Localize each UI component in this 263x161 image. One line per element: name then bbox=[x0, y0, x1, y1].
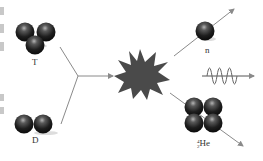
fusion-diagram: T D n 4 2 He bbox=[0, 0, 263, 161]
reaction-lines bbox=[60, 47, 113, 124]
neutron-label: n bbox=[205, 46, 210, 55]
neutron-particle bbox=[174, 9, 234, 56]
deuterium-label: D bbox=[32, 136, 39, 145]
tritium-label: T bbox=[32, 58, 38, 67]
tritium-nucleus bbox=[16, 23, 56, 55]
deuterium-nucleus bbox=[15, 115, 59, 136]
diagram-canvas bbox=[0, 0, 263, 161]
clipped-text-fragments bbox=[0, 7, 4, 114]
helium-label: 4 2 He bbox=[197, 139, 210, 149]
fusion-burst-icon bbox=[114, 49, 170, 100]
energy-wave-icon bbox=[202, 68, 254, 84]
helium-symbol: He bbox=[200, 138, 211, 148]
